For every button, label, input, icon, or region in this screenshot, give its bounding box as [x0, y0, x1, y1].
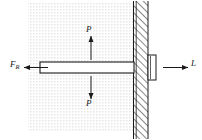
label-load-top: P: [86, 25, 92, 34]
label-reaction-force-symbol: F: [10, 59, 16, 69]
label-reaction-force-subscript: R: [16, 63, 20, 70]
wall-plate-body: [148, 55, 156, 80]
diagram-canvas: [0, 0, 202, 140]
label-reaction-force: FR: [10, 60, 19, 69]
label-length: L: [191, 59, 196, 68]
wall: [134, 1, 149, 139]
free-body-diagram: FR P P L: [0, 0, 202, 140]
wall-plate: [148, 55, 156, 80]
label-load-bottom: P: [86, 99, 92, 108]
cantilever-bar: [40, 62, 134, 73]
